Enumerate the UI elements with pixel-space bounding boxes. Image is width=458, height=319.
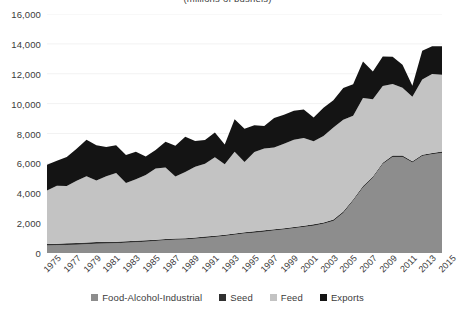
x-axis-tick: 2015	[437, 253, 458, 275]
x-axis-tick: 1985	[140, 253, 162, 275]
legend-swatch-seed	[219, 294, 226, 301]
legend-swatch-exports	[320, 294, 327, 301]
y-axis-tick: 6,000	[17, 158, 41, 169]
x-axis-tick: 1993	[219, 253, 241, 275]
y-axis-tick: 12,000	[11, 68, 41, 79]
legend-item[interactable]: Seed	[219, 292, 253, 303]
legend-label: Food-Alcohol-Industrial	[102, 292, 202, 303]
y-axis-tick: 10,000	[11, 98, 41, 109]
legend-label: Feed	[281, 292, 303, 303]
x-axis-tick: 1989	[180, 253, 202, 275]
legend-swatch-feed	[270, 294, 277, 301]
x-axis-tick: 1991	[200, 253, 222, 275]
y-axis-tick: 4,000	[17, 188, 41, 199]
legend-item[interactable]: Food-Alcohol-Industrial	[91, 292, 202, 303]
x-axis-tick: 1975	[42, 253, 64, 275]
x-axis-tick: 2003	[318, 253, 340, 275]
plot-area	[47, 14, 442, 253]
x-axis-tick: 1981	[101, 253, 123, 275]
legend-item[interactable]: Exports	[320, 292, 364, 303]
chart-title: (millions of bushels)	[0, 0, 455, 4]
x-axis-tick: 2013	[417, 253, 439, 275]
x-axis-tick: 1999	[279, 253, 301, 275]
x-axis-tick: 2011	[398, 253, 419, 274]
y-axis-labels: 16,00014,00012,00010,0008,0006,0004,0002…	[0, 0, 44, 270]
y-axis-tick: 8,000	[17, 128, 41, 139]
x-axis-tick: 1979	[81, 253, 103, 275]
legend-swatch-food-alcohol-industrial	[91, 294, 98, 301]
x-axis-tick: 2001	[298, 253, 320, 275]
x-axis-tick: 1987	[160, 253, 182, 275]
x-axis-tick: 1995	[239, 253, 261, 275]
x-axis-tick: 1997	[259, 253, 281, 275]
x-axis-tick: 2007	[358, 253, 380, 275]
x-axis-tick: 1983	[121, 253, 143, 275]
chart-legend: Food-Alcohol-IndustrialSeedFeedExports	[0, 292, 455, 303]
y-axis-tick: 16,000	[11, 9, 41, 20]
plot-svg	[47, 14, 442, 253]
x-axis-tick: 2005	[338, 253, 360, 275]
legend-item[interactable]: Feed	[270, 292, 303, 303]
x-axis-tick: 2009	[377, 253, 399, 275]
y-axis-tick: 0	[36, 248, 41, 259]
legend-label: Seed	[230, 292, 253, 303]
x-axis-tick: 1977	[61, 253, 83, 275]
y-axis-tick: 2,000	[17, 218, 41, 229]
y-axis-tick: 14,000	[11, 38, 41, 49]
legend-label: Exports	[331, 292, 364, 303]
